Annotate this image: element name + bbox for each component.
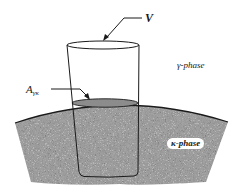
interface-area-label: Aγκ: [26, 84, 39, 97]
interface-area-ellipse: [72, 99, 138, 107]
interface-area-symbol: A: [26, 83, 33, 95]
volume-leader: [103, 18, 142, 41]
interface-area-subscript: γκ: [33, 89, 39, 97]
control-volume-top: [67, 41, 139, 49]
volume-label: V: [145, 12, 153, 24]
interface-area-leader: [51, 89, 90, 100]
kappa-phase-label: κ-phase: [167, 138, 204, 149]
gamma-phase-label: γ-phase: [177, 61, 205, 70]
